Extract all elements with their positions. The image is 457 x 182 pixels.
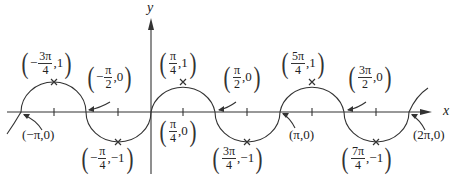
x-axis-label: x	[443, 103, 449, 119]
label-pi-4-peak: ( π4 ,1)	[158, 48, 198, 78]
label-2pi: (2π,0)	[413, 127, 444, 143]
label-pi-2: ( π2 ,0)	[222, 62, 262, 92]
label-pi-4-zero: ( π4 ,0)	[158, 116, 198, 146]
max-marker-icon	[309, 79, 315, 85]
label-7pi-4: ( 7π4 ,−1)	[340, 143, 393, 173]
label-neg-pi-4: (− π4 ,−1)	[80, 143, 135, 173]
label-3pi-2: ( 3π2 ,0)	[347, 62, 393, 92]
label-neg-3pi-4: (− 3π4 ,1)	[20, 48, 73, 78]
label-pi: (π,0)	[289, 127, 314, 143]
label-3pi-4: ( 3π4 ,−1)	[211, 143, 264, 173]
label-neg-pi-2: (− π2 ,0)	[86, 62, 133, 92]
max-marker-icon	[180, 79, 186, 85]
label-5pi-4: ( 5π4 ,1)	[280, 48, 326, 78]
y-axis-arrow-icon	[148, 18, 154, 30]
label-neg-pi: (−π,0)	[22, 127, 54, 143]
y-axis-label: y	[147, 0, 153, 16]
x-axis-arrow-icon	[420, 109, 432, 115]
